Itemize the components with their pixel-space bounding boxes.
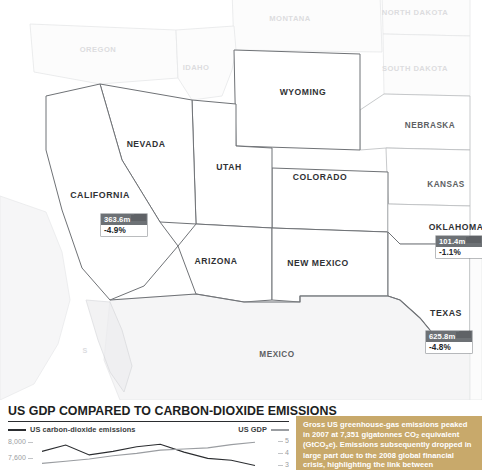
- callout-change-value: -1.1%: [436, 247, 482, 258]
- state-oregon: [30, 24, 178, 84]
- callout-change-value: -4.8%: [426, 342, 472, 353]
- state-kansas: [386, 148, 470, 206]
- state-colorado: [272, 168, 388, 232]
- callout-emissions-value: 101.4m: [436, 236, 482, 247]
- legend-item-emissions: US carbon-dioxide emissions: [8, 424, 136, 436]
- emissions-line-swatch-icon: [8, 429, 26, 431]
- factory-icon: [456, 331, 471, 338]
- co2-subscript: 2: [416, 433, 419, 439]
- title-divider: [8, 421, 289, 422]
- state-new-mexico: [272, 228, 388, 302]
- us-southwest-map: .st { fill:#ffffff; stroke:#b9bbbe; stro…: [0, 0, 482, 400]
- caption-text: Gross US greenhouse-gas emissions peaked…: [296, 416, 482, 470]
- legend-label-gdp: US GDP: [238, 424, 267, 436]
- state-montana: [232, 0, 382, 52]
- caption-line-5: crisis, highlighting the link between: [303, 460, 433, 469]
- callout-emissions-value: 363.6m: [101, 214, 147, 225]
- state-nebraska: [360, 94, 470, 150]
- map-east-edge: [470, 244, 482, 400]
- legend-item-gdp: US GDP: [238, 424, 289, 436]
- emissions-callout-california[interactable]: 363.6m-4.9%: [101, 214, 147, 236]
- caption-line-3a: (GtCO: [303, 440, 326, 449]
- map-vector: .st { fill:#ffffff; stroke:#b9bbbe; stro…: [0, 0, 482, 400]
- legend-label-emissions: US carbon-dioxide emissions: [30, 424, 136, 436]
- factory-icon: [131, 214, 146, 221]
- chart-legend: US carbon-dioxide emissions US GDP: [8, 424, 289, 436]
- infographic-page: and shale gas proving a cheaper energy a…: [0, 0, 482, 470]
- caption-line-2b: equivalent: [419, 430, 459, 439]
- caption-line-3b: e). Emissions subsequently dropped: [329, 440, 463, 449]
- emissions-caption-panel: Gross US greenhouse-gas emissions peaked…: [296, 416, 482, 470]
- gdp-line-swatch-icon: [271, 429, 289, 431]
- chart-series-svg: [8, 438, 289, 470]
- state-north-dakota: [382, 0, 470, 36]
- factory-icon: [466, 236, 481, 243]
- caption-line-1: Gross US greenhouse-gas emissions peaked: [303, 420, 467, 429]
- chart-plot-area: 8,000 7,600 5 4 3: [8, 438, 289, 470]
- state-south-dakota: [383, 34, 470, 96]
- chart-title: US GDP COMPARED TO CARBON-DIOXIDE EMISSI…: [8, 404, 337, 418]
- state-wyoming: [234, 50, 360, 150]
- emissions-callout-texas[interactable]: 625.8m-4.8%: [426, 331, 472, 353]
- caption-line-2a: in 2007 at 7,351 gigatonnes CO: [303, 430, 416, 439]
- emissions-callout-oklahoma[interactable]: 101.4m-1.1%: [436, 236, 482, 258]
- callout-change-value: -4.9%: [101, 225, 147, 236]
- callout-emissions-value: 625.8m: [426, 331, 472, 342]
- series-line-emissions: [42, 444, 255, 465]
- gtco2e-subscript: 2: [326, 444, 329, 450]
